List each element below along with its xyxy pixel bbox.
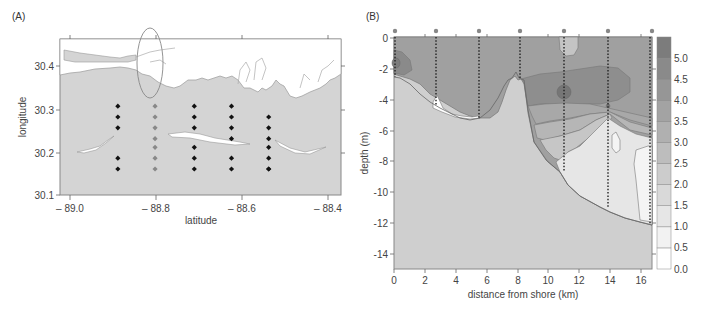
colorbar-swatch <box>657 142 671 163</box>
ytick-m4: -4 <box>379 95 388 106</box>
colorbar-label: 5.0 <box>674 53 688 64</box>
ytick-m14: -14 <box>374 249 389 260</box>
y-axis-label: longitude <box>17 96 28 137</box>
xtick-6: 6 <box>484 275 490 286</box>
colorbar-swatch <box>657 121 671 142</box>
colorbar-label: 2.0 <box>674 179 688 190</box>
xtick-89-0: – 89.0 <box>56 203 84 214</box>
xtick-16: 16 <box>635 275 647 286</box>
colorbar-label: 4.0 <box>674 95 688 106</box>
colorbar-swatch <box>657 79 671 100</box>
panel-b-label: (B) <box>366 11 379 22</box>
colorbar-label: 0.0 <box>674 264 688 275</box>
xtick-14: 14 <box>604 275 616 286</box>
xtick-10: 10 <box>542 275 554 286</box>
colorbar: 5.04.54.03.53.02.52.01.51.00.50.0 <box>657 37 688 275</box>
colorbar-swatch <box>657 227 671 248</box>
ytick-m8: -8 <box>379 156 388 167</box>
station-markers <box>393 29 654 33</box>
colorbar-label: 2.5 <box>674 158 688 169</box>
xtick-2: 2 <box>422 275 428 286</box>
colorbar-label: 3.0 <box>674 137 688 148</box>
panel-a: (A) 30.4 <box>12 11 345 226</box>
ytick-30-3: 30.3 <box>35 105 55 116</box>
colorbar-label: 4.5 <box>674 74 688 85</box>
xtick-88-8: – 88.8 <box>142 203 170 214</box>
colorbar-label: 1.5 <box>674 200 688 211</box>
ytick-m2: -2 <box>379 64 388 75</box>
colorbar-label: 3.5 <box>674 116 688 127</box>
xtick-4: 4 <box>453 275 459 286</box>
xtick-88-4: – 88.4 <box>314 203 342 214</box>
ytick-30-1: 30.1 <box>35 190 55 201</box>
xtick-88-6: – 88.6 <box>228 203 256 214</box>
xtick-8: 8 <box>515 275 521 286</box>
xtick-12: 12 <box>573 275 585 286</box>
ytick-m6: -6 <box>379 126 388 137</box>
figure: (A) 30.4 <box>0 0 708 310</box>
map-plot-area <box>60 28 341 195</box>
contour-plot-area <box>392 29 654 269</box>
x-ticks-b: 0 2 4 6 8 10 12 14 16 <box>391 275 647 286</box>
xtick-0: 0 <box>391 275 397 286</box>
colorbar-swatch <box>657 185 671 206</box>
colorbar-label: 1.0 <box>674 221 688 232</box>
colorbar-swatch <box>657 248 671 269</box>
ytick-0: 0 <box>382 33 388 44</box>
contour-core-shore <box>392 58 400 68</box>
ytick-30-4: 30.4 <box>35 61 55 72</box>
colorbar-swatch <box>657 58 671 79</box>
x-axis-label: latitude <box>185 215 218 226</box>
panel-a-label: (A) <box>12 11 25 22</box>
colorbar-swatch <box>657 100 671 121</box>
colorbar-swatch <box>657 37 671 58</box>
ytick-30-2: 30.2 <box>35 148 55 159</box>
panel-b: (B) <box>359 11 688 300</box>
y-axis-label-b: depth (m) <box>359 132 370 175</box>
colorbar-swatch <box>657 164 671 185</box>
ytick-m12: -12 <box>374 218 389 229</box>
colorbar-swatch <box>657 206 671 227</box>
x-axis-label-b: distance from shore (km) <box>468 289 579 300</box>
y-ticks-b: 0 -2 -4 -6 -8 -10 -12 -14 <box>374 33 389 260</box>
ytick-m10: -10 <box>374 187 389 198</box>
colorbar-label: 0.5 <box>674 242 688 253</box>
